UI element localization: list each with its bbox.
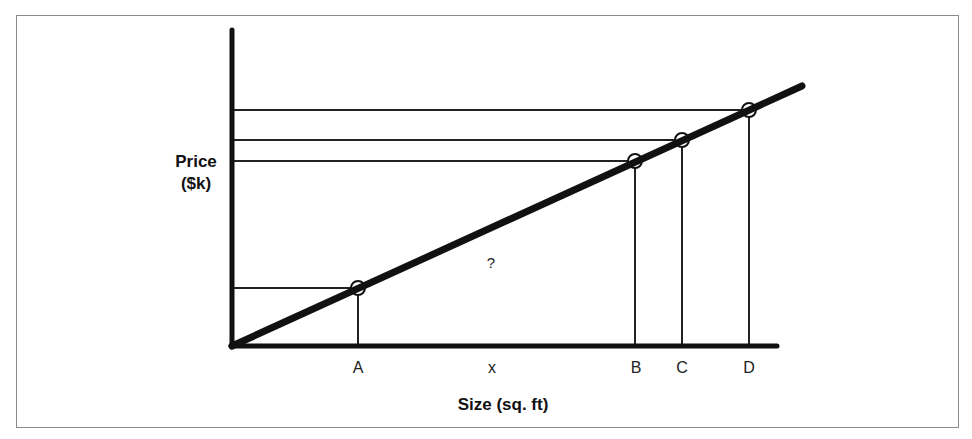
x-axis-title: Size (sq. ft) xyxy=(458,395,549,414)
tick-label-a: A xyxy=(353,359,364,376)
tick-label-c: C xyxy=(676,359,688,376)
y-axis-title-line2: ($k) xyxy=(181,174,211,193)
price-size-diagram: Price ($k) A x B C D ? Size (sq. ft) xyxy=(0,0,972,439)
tick-label-x: x xyxy=(488,359,496,376)
tick-label-b: B xyxy=(631,359,642,376)
tick-label-d: D xyxy=(743,359,755,376)
y-axis-title-line1: Price xyxy=(175,152,217,171)
trend-line xyxy=(232,86,802,346)
vertical-guides xyxy=(358,116,749,346)
unknown-price-label: ? xyxy=(487,254,495,271)
